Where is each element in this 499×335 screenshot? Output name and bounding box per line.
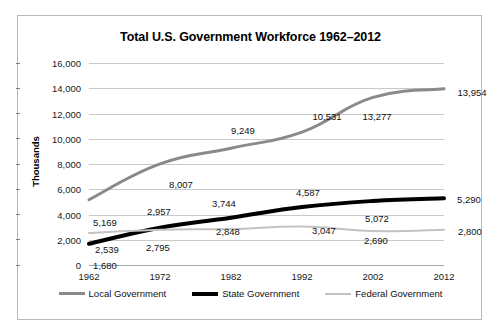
data-point-label: 3,047 [312, 224, 336, 235]
y-axis-tick-label: 6,000 [21, 184, 81, 195]
series-lines [89, 63, 444, 265]
x-axis-tick-label: 1992 [272, 271, 332, 282]
data-point-label: 2,800 [458, 225, 482, 236]
data-point-label: 2,795 [146, 241, 170, 252]
legend-label: State Government [222, 288, 299, 299]
data-point-label: 10,531 [312, 111, 341, 122]
chart-title: Total U.S. Government Workforce 1962–201… [18, 30, 483, 44]
legend-line-swatch [59, 292, 85, 295]
y-axis-tick-mark [16, 113, 20, 114]
series-line [89, 198, 444, 244]
y-axis-tick-mark [16, 63, 20, 64]
y-axis-tick-mark [16, 138, 20, 139]
y-axis-tick-label: 4,000 [21, 209, 81, 220]
data-point-label: 5,290 [457, 194, 481, 205]
data-point-label: 13,277 [362, 111, 391, 122]
y-axis-tick-label: 2,000 [21, 234, 81, 245]
gridline [89, 265, 444, 266]
legend-line-swatch [192, 292, 218, 296]
data-point-label: 5,072 [365, 212, 389, 223]
x-axis-tick-label: 1962 [59, 271, 119, 282]
y-axis-tick-mark [16, 88, 20, 89]
chart-container: Total U.S. Government Workforce 1962–201… [17, 15, 482, 320]
y-axis-tick-mark [16, 239, 20, 240]
data-point-label: 3,744 [212, 197, 236, 208]
y-axis-tick-mark [16, 164, 20, 165]
y-axis-tick-label: 10,000 [21, 133, 81, 144]
data-point-label: 2,848 [216, 226, 240, 237]
legend-line-swatch [325, 293, 351, 295]
data-point-label: 5,169 [93, 216, 117, 227]
y-axis-tick-mark [16, 189, 20, 190]
y-axis-tick-label: 8,000 [21, 159, 81, 170]
data-point-label: 13,954 [457, 86, 486, 97]
data-point-label: 1,680 [93, 259, 117, 270]
data-point-label: 8,007 [169, 178, 193, 189]
legend-item[interactable]: Local Government [59, 288, 167, 299]
x-axis-tick-label: 1982 [201, 271, 261, 282]
x-axis-tick-label: 2002 [343, 271, 403, 282]
legend-item[interactable]: Federal Government [325, 288, 442, 299]
y-axis-tick-label: 0 [21, 260, 81, 271]
data-point-label: 2,690 [364, 235, 388, 246]
x-axis-tick-label: 2012 [414, 271, 474, 282]
y-axis-tick-label: 16,000 [21, 58, 81, 69]
y-axis-tick-label: 12,000 [21, 108, 81, 119]
legend-label: Federal Government [355, 288, 442, 299]
data-point-label: 9,249 [231, 125, 255, 136]
plot-area: 02,0004,0006,0008,00010,00012,00014,0001… [89, 63, 444, 265]
data-point-label: 2,957 [147, 205, 171, 216]
legend-item[interactable]: State Government [192, 288, 299, 299]
legend-label: Local Government [89, 288, 167, 299]
x-axis-tick-label: 1972 [130, 271, 190, 282]
series-line [89, 89, 444, 200]
data-point-label: 4,587 [296, 187, 320, 198]
y-axis-tick-mark [16, 265, 20, 266]
chart-legend: Local GovernmentState GovernmentFederal … [18, 288, 483, 299]
y-axis-tick-label: 14,000 [21, 83, 81, 94]
data-point-label: 2,539 [95, 243, 119, 254]
y-axis-tick-mark [16, 214, 20, 215]
